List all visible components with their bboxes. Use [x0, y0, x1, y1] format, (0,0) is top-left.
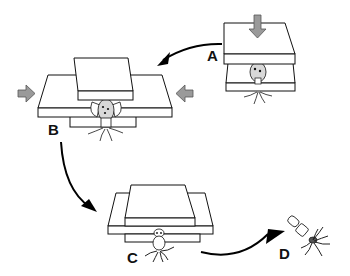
panel-b-top-plate — [74, 58, 133, 100]
panel-c: C — [108, 185, 213, 266]
diagram-svg: A — [0, 0, 350, 276]
panel-d: D — [279, 215, 330, 262]
flow-arrow-b-to-c-icon — [61, 142, 97, 212]
panel-d-specimen — [287, 215, 330, 256]
panel-a: A — [207, 15, 295, 104]
label-b: B — [48, 121, 59, 138]
panel-b: B — [18, 58, 193, 141]
push-right-arrow-icon — [18, 85, 35, 102]
flow-arrow-c-to-d-icon — [201, 229, 285, 255]
label-a: A — [207, 47, 218, 64]
panel-c-top-plate — [125, 185, 195, 226]
label-c: C — [127, 249, 138, 266]
label-d: D — [279, 245, 290, 262]
diagram-canvas: A — [0, 0, 350, 276]
push-left-arrow-icon — [176, 85, 193, 102]
